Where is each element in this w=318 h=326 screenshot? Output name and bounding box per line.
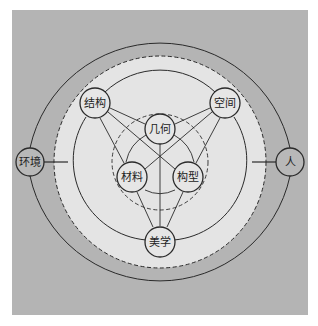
node-human: 人 [276, 148, 304, 176]
node-space-label: 空间 [214, 96, 236, 110]
node-geometry-label: 几何 [149, 123, 171, 136]
node-geometry: 几何 [145, 114, 175, 144]
node-configuration-label: 构型 [177, 170, 199, 184]
node-human-label: 人 [285, 156, 296, 169]
node-structure: 结构 [80, 88, 110, 118]
node-aesthetics: 美学 [145, 227, 175, 257]
node-configuration: 构型 [173, 162, 203, 192]
node-environment-label: 环境 [19, 155, 41, 169]
node-environment: 环境 [16, 148, 44, 176]
node-space: 空间 [210, 88, 240, 118]
node-structure-label: 结构 [84, 96, 106, 110]
node-material-label: 材料 [121, 170, 143, 184]
design-relationship-diagram: 环境 人 结构 空间 美学 几何 材料 构型 [0, 0, 318, 326]
node-material: 材料 [117, 162, 147, 192]
node-aesthetics-label: 美学 [149, 235, 171, 249]
